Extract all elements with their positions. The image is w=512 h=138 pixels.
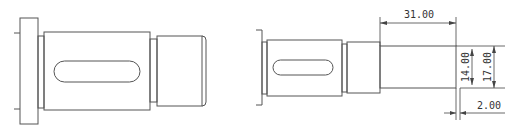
keyway-slot [54,61,140,82]
journal-2 [347,42,380,93]
cad-drawing-canvas: 31.00 14.00 17.00 2.00 [0,0,512,138]
dimension-step: 2.00 [444,100,505,115]
keyway-slot-2 [273,60,333,75]
bracket [256,30,262,105]
left-shaft-view [14,18,206,124]
outer-diameter-label: 17.00 [482,52,493,82]
step-label: 2.00 [477,100,501,111]
extended-section [380,46,456,88]
end-journal [157,36,202,106]
neck [38,36,44,108]
main-body [44,32,150,110]
chamfer [202,36,206,106]
dimension-length: 31.00 [380,9,456,46]
dimension-inner-diameter: 14.00 [460,49,474,85]
flange [20,18,38,124]
neck-2 [262,42,267,94]
dimension-outer-diameter: 17.00 [482,46,496,88]
small-neck [150,39,157,102]
right-shaft-view: 31.00 14.00 17.00 2.00 [256,9,505,120]
length-label: 31.00 [404,9,434,20]
main-body-2 [267,40,342,96]
small-neck-2 [342,44,347,92]
inner-diameter-label: 14.00 [460,52,471,82]
